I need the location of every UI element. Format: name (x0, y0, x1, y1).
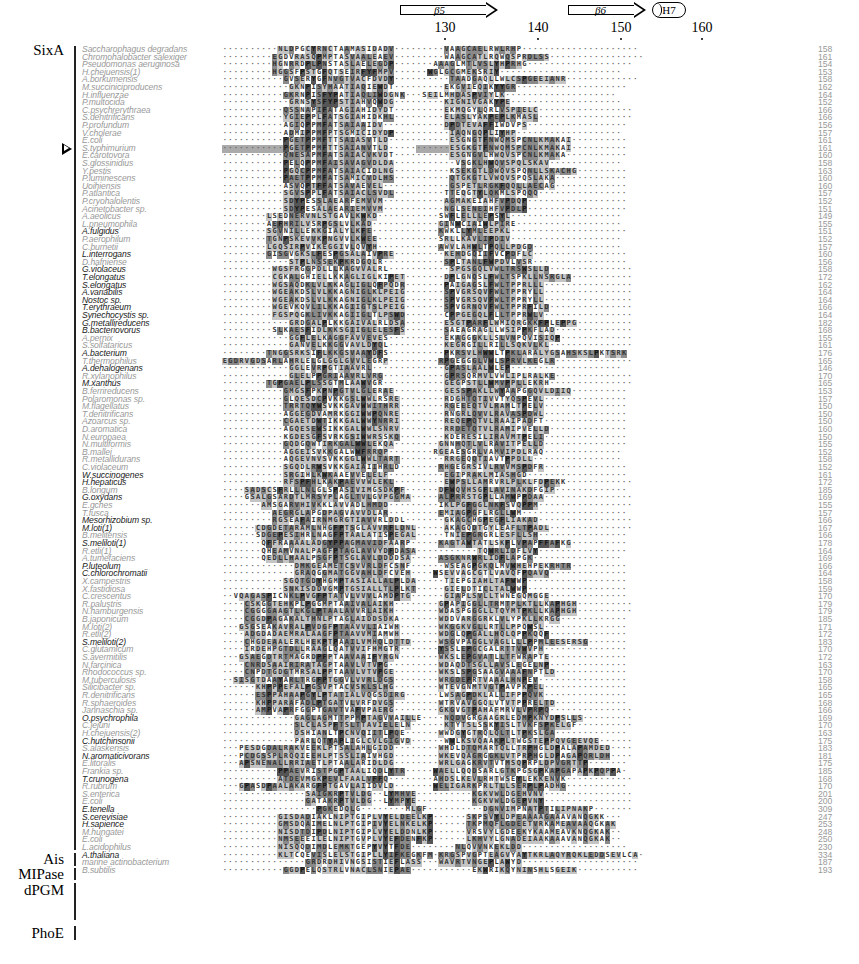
gap: · (627, 342, 633, 350)
ruler-tick-label: 130 (425, 20, 465, 36)
gap: · (627, 525, 633, 533)
group-bracket (74, 926, 76, 940)
ruler-tick-mark (620, 38, 622, 40)
gap: · (627, 380, 633, 388)
gap: · (621, 84, 627, 92)
gap: · (621, 122, 627, 130)
gap: · (638, 852, 644, 860)
gap: · (627, 358, 633, 366)
gap: · (616, 814, 622, 822)
strand-arrow-icon: β5 (400, 2, 498, 18)
ruler-tick-mark (701, 38, 703, 40)
strand-arrow-head-inner (634, 4, 643, 16)
gap: · (627, 776, 633, 784)
gap: · (627, 722, 633, 730)
gap: · (621, 206, 627, 214)
sequence-end-position: 193 (818, 867, 838, 875)
gap: · (632, 76, 638, 84)
strand-arrow-icon: β6 (568, 2, 646, 18)
gap: · (627, 114, 633, 122)
gap: · (632, 867, 638, 875)
ruler-tick-label: 150 (601, 20, 641, 36)
species-name: M.hungatei (82, 829, 232, 837)
group-label: PhoE (0, 925, 64, 942)
group-label: SixA (0, 42, 64, 59)
gap: · (621, 152, 627, 160)
gap: · (627, 753, 633, 761)
gap: · (627, 479, 633, 487)
strand-arrow-head-inner (486, 4, 495, 16)
gap: · (638, 54, 644, 62)
group-bracket (74, 46, 76, 850)
alignment-figure: β5β6H7 130140150160 SixAAisMIPasedPGMPho… (0, 0, 859, 964)
species-name: V.cholerae (82, 130, 232, 138)
gap: · (627, 608, 633, 616)
group-bracket (74, 853, 76, 866)
gap: · (627, 61, 633, 69)
group-label: dPGM (0, 882, 64, 899)
group-bracket (74, 883, 76, 920)
strand-label: β5 (434, 2, 445, 18)
ruler-tick-label: 160 (682, 20, 722, 36)
ruler-tick-label: 140 (518, 20, 558, 36)
species-name: S.enterica (82, 791, 232, 799)
gap: · (627, 806, 633, 814)
group-label: MIPase (0, 866, 64, 883)
gap: · (621, 228, 627, 236)
ruler-tick-mark (537, 38, 539, 40)
gap: · (621, 548, 627, 556)
species-name: B.subtilis (82, 867, 232, 875)
strand-label: β6 (595, 2, 606, 18)
helix-cylinder-icon: H7 (652, 2, 686, 18)
ruler-tick-mark (444, 38, 446, 40)
sequence-row: ···········GGDPELQSTRLVNACLSNIEPAE······… (222, 867, 638, 875)
gap: · (621, 441, 627, 449)
group-bracket (74, 868, 76, 880)
highlight-triangle-inner (64, 145, 69, 151)
gap: · (627, 502, 633, 510)
